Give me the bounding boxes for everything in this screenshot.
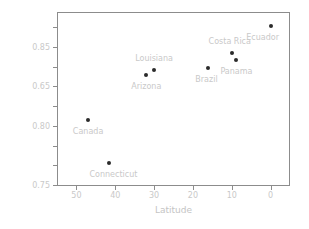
x-tick-label: 30: [149, 191, 159, 200]
y-tick-mark: [53, 47, 57, 48]
x-tick-mark: [232, 186, 233, 190]
y-tick-mark: [53, 86, 57, 87]
y-tick-mark: [53, 165, 57, 166]
x-tick-label: 40: [110, 191, 120, 200]
y-tick-label: 0.75: [32, 181, 50, 190]
y-tick-label: 0.65: [32, 82, 50, 91]
y-tick-mark: [53, 67, 57, 68]
x-tick-label: 50: [71, 191, 81, 200]
plot-frame: [57, 12, 290, 186]
y-tick-mark: [53, 106, 57, 107]
y-tick-mark: [53, 146, 57, 147]
x-tick-label: 0: [268, 191, 273, 200]
x-tick-mark: [76, 186, 77, 190]
x-tick-label: 20: [188, 191, 198, 200]
x-tick-mark: [193, 186, 194, 190]
x-tick-mark: [154, 186, 155, 190]
y-tick-mark: [53, 27, 57, 28]
x-axis-title: Latitude: [57, 205, 290, 215]
x-tick-mark: [115, 186, 116, 190]
y-tick-label: 0.85: [32, 42, 50, 51]
x-tick-label: 10: [227, 191, 237, 200]
y-tick-label: 0.80: [32, 121, 50, 130]
y-tick-mark: [53, 126, 57, 127]
y-tick-mark: [53, 185, 57, 186]
scatter-plot-figure: 50403020100 0.850.650.800.75 CanadaConne…: [0, 0, 309, 229]
x-tick-mark: [271, 186, 272, 190]
